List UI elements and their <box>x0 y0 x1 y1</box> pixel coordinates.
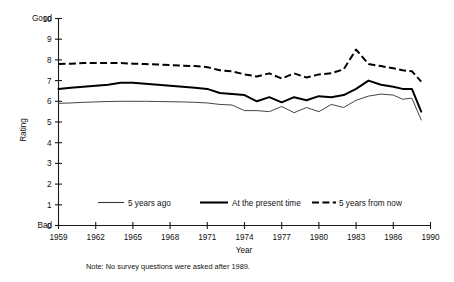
data-series-group <box>59 50 422 120</box>
legend-label-0: 5 years ago <box>128 199 171 208</box>
chart-note: Note: No survey questions were asked aft… <box>86 262 250 271</box>
chart-canvas: 012345678910 195919621965196819711974197… <box>0 0 454 282</box>
x-tick-label: 1977 <box>273 233 292 242</box>
y-tick-label: 1 <box>47 201 52 210</box>
y-tick-label: 4 <box>47 139 52 148</box>
series-line-1 <box>59 81 422 112</box>
chart-legend: 5 years agoAt the present time5 years fr… <box>98 199 402 208</box>
y-tick-label: 9 <box>47 35 52 44</box>
series-line-0 <box>59 94 422 120</box>
y-axis-bottom-annotation: Bad <box>37 221 52 230</box>
series-line-2 <box>59 50 422 82</box>
x-tick-label: 1962 <box>87 233 106 242</box>
x-tick-label: 1968 <box>161 233 180 242</box>
legend-label-2: 5 years from now <box>339 199 402 208</box>
y-axis: 012345678910 <box>42 15 62 231</box>
x-tick-label: 1959 <box>49 233 68 242</box>
y-axis-top-annotation: Good <box>32 14 52 23</box>
y-tick-label: 3 <box>47 159 52 168</box>
x-tick-label: 1974 <box>235 233 254 242</box>
legend-label-1: At the present time <box>232 199 301 208</box>
y-tick-label: 7 <box>47 77 52 86</box>
y-tick-label: 6 <box>47 97 52 106</box>
x-axis: 1959196219651968197119741977198019831986… <box>49 222 440 242</box>
x-tick-label: 1971 <box>198 233 217 242</box>
x-tick-label: 1965 <box>124 233 143 242</box>
x-tick-label: 1983 <box>347 233 366 242</box>
x-tick-label: 1986 <box>384 233 403 242</box>
x-tick-label: 1980 <box>310 233 329 242</box>
y-tick-label: 8 <box>47 56 52 65</box>
x-axis-title: Year <box>236 246 253 255</box>
x-tick-label: 1990 <box>421 233 440 242</box>
y-tick-label: 5 <box>47 118 52 127</box>
y-tick-label: 2 <box>47 180 52 189</box>
y-axis-title: Rating <box>19 118 28 142</box>
line-chart-figure: 012345678910 195919621965196819711974197… <box>0 0 454 282</box>
